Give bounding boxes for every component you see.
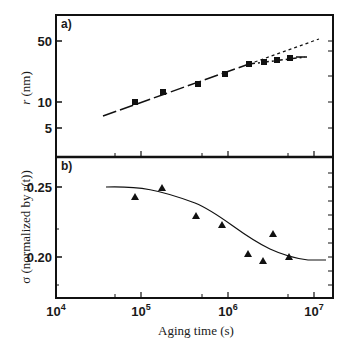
triangle-marker: [244, 250, 252, 257]
square-marker: [160, 89, 166, 95]
y-tick-label-a: 10: [38, 95, 52, 110]
triangle-marker: [218, 221, 226, 228]
x-tick-label: 106: [218, 302, 237, 319]
triangle-marker: [192, 212, 200, 219]
panel-a-label: a): [61, 17, 72, 31]
triangle-marker: [158, 184, 166, 191]
square-marker: [274, 57, 280, 63]
square-marker: [132, 99, 138, 105]
panel-b-data-points: [131, 184, 293, 264]
triangle-marker: [269, 230, 277, 237]
panel-b-label: b): [61, 159, 72, 173]
x-axis-title: Aging time (s): [158, 323, 234, 338]
panel-b-fit-curve: [106, 187, 326, 260]
y-tick-label-a: 5: [45, 121, 52, 136]
square-marker: [261, 59, 267, 65]
chart-figure: 50 10 5 r (nm) a) b): [0, 0, 349, 347]
y-axis-title-b: σ (normalized by r(t)): [18, 170, 33, 284]
triangle-marker: [131, 193, 139, 200]
y-tick-label-a: 50: [38, 34, 52, 49]
panel-b-y-axis: 0.25 0.20 σ (normalized by r(t)): [18, 170, 333, 285]
square-marker: [195, 81, 201, 87]
square-marker: [222, 71, 228, 77]
triangle-marker: [259, 257, 267, 264]
square-marker: [287, 55, 293, 61]
x-tick-label: 105: [131, 302, 150, 319]
y-axis-title-a: r (nm): [18, 71, 33, 105]
square-marker: [246, 61, 252, 67]
x-tick-label: 107: [304, 302, 323, 319]
panel-a-y-axis: 50 10 5 r (nm): [18, 34, 333, 136]
x-tick-label: 104: [46, 302, 65, 319]
